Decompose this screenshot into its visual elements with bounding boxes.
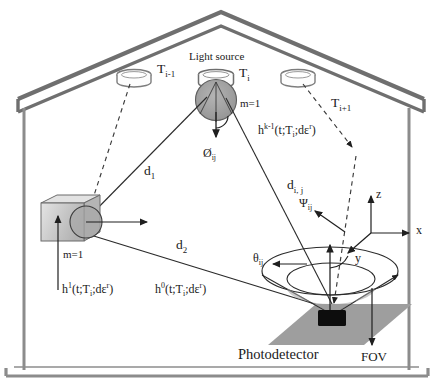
impulse-response-k-label: hk-1(t;Ti;dεr) <box>258 124 316 136</box>
transmitter-current-symbol: T <box>239 65 247 80</box>
transmitter-fixture-prev <box>117 70 151 88</box>
transmitter-prev-label: Ti-1 <box>157 62 175 76</box>
distance-dij-label: di, j <box>287 178 303 192</box>
psi-angle-pointer <box>315 211 345 232</box>
ray-d2-wallnode-to-detector <box>84 233 331 309</box>
h-0-args-open: (t;T <box>165 282 183 296</box>
impulse-response-0-label: h0(t;Ti;dεr) <box>155 283 206 295</box>
h-k-args-open: (t;T <box>275 123 293 137</box>
psi-angle-index: ij <box>308 203 312 212</box>
photodetector-label: Photodetector <box>238 347 319 362</box>
distance-d1-label: d1 <box>144 164 155 178</box>
h-1-args-open: (t;T <box>72 282 90 296</box>
axis-z-label: z <box>376 188 381 200</box>
ray-d1-source-to-wallnode <box>86 97 207 220</box>
transmitter-current-label: Ti <box>239 66 250 80</box>
irradiance-angle-symbol: Ø <box>203 146 212 160</box>
irradiance-angle-label: Øij <box>203 147 216 159</box>
h-0-args-close: ) <box>202 282 206 296</box>
light-source-label: Light source <box>189 51 244 62</box>
figure-canvas: photodetector --> photodetector --> <box>0 0 441 385</box>
transmitter-next-label: Ti+1 <box>331 96 351 110</box>
h-1-args-tail: ;dε <box>92 282 106 296</box>
transmitter-next-symbol: T <box>331 95 339 110</box>
distance-d1-symbol: d <box>144 163 151 178</box>
h-k-args-close: ) <box>312 123 316 137</box>
distance-dij-index: i, j <box>294 185 303 195</box>
incidence-angle-index: ij <box>259 258 263 267</box>
distance-d2-index: 2 <box>183 245 187 255</box>
wallnode-lambertian-order-label: m=1 <box>63 249 83 260</box>
distance-dij-symbol: d <box>287 177 294 192</box>
incidence-angle-label: θij <box>253 252 263 264</box>
impulse-response-1-label: h1(t;Ti;dεr) <box>62 283 113 295</box>
irradiance-angle-index: ij <box>212 153 216 162</box>
coordinate-axes <box>348 196 409 253</box>
transmitter-current-index: i <box>247 73 249 83</box>
dashed-path-next-transmitter-seg1 <box>303 84 352 147</box>
axis-y-arrow <box>348 233 371 253</box>
distance-d1-index: 1 <box>151 171 155 181</box>
psi-angle-label: Ψij <box>299 197 312 209</box>
h-1-args-close: ) <box>109 282 113 296</box>
fov-label: FOV <box>361 350 387 363</box>
distance-d2-label: d2 <box>176 238 187 252</box>
photodetector-chip <box>318 310 346 326</box>
transmitter-prev-index: i-1 <box>165 69 175 79</box>
axis-x-label: x <box>416 224 422 236</box>
transmitter-prev-symbol: T <box>157 61 165 76</box>
source-lambertian-order-label: m=1 <box>240 98 260 109</box>
h-k-args-tail: ;dε <box>295 123 309 137</box>
transmitter-fixture-next <box>281 70 315 88</box>
wall-node-cube <box>41 195 102 241</box>
psi-angle-symbol: Ψ <box>299 196 308 210</box>
axis-y-label: y <box>355 252 361 264</box>
distance-d2-symbol: d <box>176 237 183 252</box>
h-k-order: k-1 <box>264 122 275 131</box>
h-0-args-tail: ;dε <box>185 282 199 296</box>
transmitter-next-index: i+1 <box>339 103 351 113</box>
dashed-path-next-transmitter-seg2 <box>334 156 356 303</box>
